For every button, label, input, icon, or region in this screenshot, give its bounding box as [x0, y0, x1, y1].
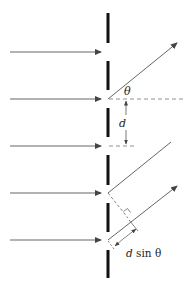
slit-spacing-label: d	[119, 118, 126, 129]
path-difference-label: d sin θ	[126, 248, 161, 259]
diffracted-ray	[108, 142, 171, 193]
extension-line	[129, 220, 138, 231]
right-angle-mark	[124, 209, 131, 213]
angle-theta-label: θ	[124, 86, 131, 97]
grating-barrier	[107, 13, 110, 278]
path-difference-sin-theta: sin θ	[133, 247, 162, 259]
barrier-segment	[107, 61, 110, 90]
barrier-segment	[107, 13, 110, 43]
incident-rays	[10, 52, 101, 240]
diffracted-rays	[108, 43, 177, 240]
barrier-segment	[107, 108, 110, 137]
barrier-segment	[107, 203, 110, 232]
barrier-segment	[107, 155, 110, 185]
diffracted-ray	[108, 43, 177, 99]
diffracted-ray	[108, 186, 177, 240]
diagram-canvas	[0, 0, 192, 285]
extension-line	[108, 241, 114, 249]
barrier-segment	[107, 250, 110, 278]
path-difference-dimension	[123, 229, 136, 239]
path-difference-d: d	[126, 247, 133, 259]
path-difference-dimension	[115, 239, 123, 246]
perpendicular-dashed-line	[108, 193, 128, 218]
path-difference-construction	[108, 193, 138, 249]
diffraction-grating-diagram: θ d d sin θ	[0, 0, 192, 285]
